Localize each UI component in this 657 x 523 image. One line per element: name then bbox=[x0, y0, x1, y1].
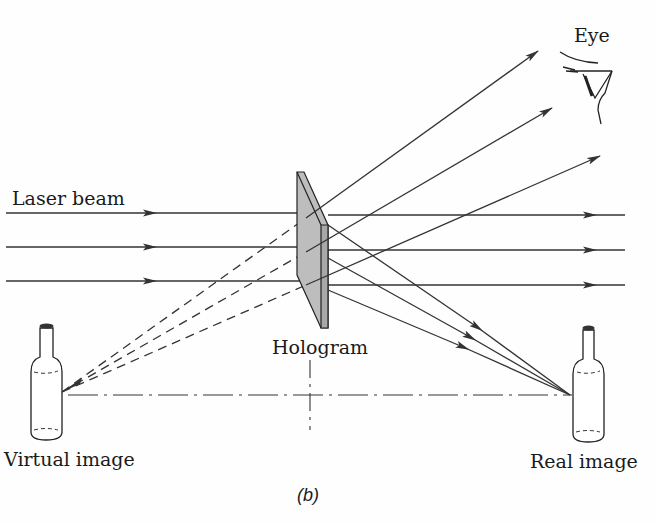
hologram-diagram: Eye Laser beam Hologram Virtual image Re… bbox=[0, 0, 657, 523]
hologram-plate bbox=[297, 172, 328, 328]
virtual-image-bottle bbox=[31, 324, 62, 441]
virtual-image-label: Virtual image bbox=[3, 448, 135, 470]
real-image-label: Real image bbox=[530, 450, 638, 472]
hologram-label: Hologram bbox=[272, 336, 368, 358]
optical-axis bbox=[68, 360, 572, 430]
figure-caption: (b) bbox=[297, 485, 319, 505]
real-image-bottle bbox=[573, 326, 604, 443]
eye-icon bbox=[560, 52, 612, 124]
virtual-image-rays bbox=[62, 218, 306, 392]
eye-label: Eye bbox=[574, 24, 610, 46]
laser-beam-label: Laser beam bbox=[12, 187, 125, 209]
